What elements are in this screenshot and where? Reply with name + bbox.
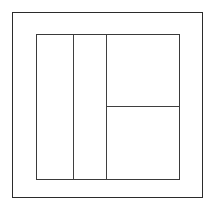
line-drawing [0,0,215,205]
drawing-canvas [0,0,215,205]
canvas-background [0,0,215,205]
